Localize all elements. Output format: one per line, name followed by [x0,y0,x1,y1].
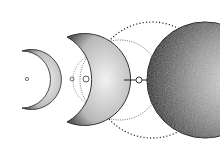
large-crescent-moon [67,34,131,126]
connector-ring-icon [83,76,89,82]
moon-phases-illustration [0,0,220,165]
full-moon [147,22,220,138]
connector-dot-icon [70,77,74,81]
connector-ring-icon [136,77,142,83]
small-dot-icon [25,77,28,80]
small-crescent-moon [22,50,61,110]
